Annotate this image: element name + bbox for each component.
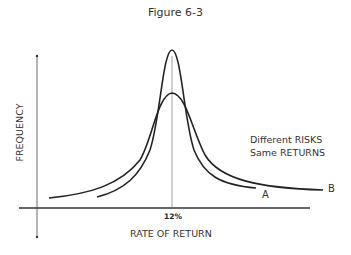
curve-a [97,50,256,197]
x-axis-label: RATE OF RETURN [130,228,212,239]
annotation: Different RISKS Same RETURNS [250,133,325,159]
series-label-a: A [262,189,269,200]
x-tick-label: 12% [164,212,182,221]
annotation-line-2: Same RETURNS [250,146,325,159]
annotation-line-1: Different RISKS [250,133,325,146]
y-axis-label: FREQUENCY [14,104,25,162]
series-label-b: B [328,183,335,194]
